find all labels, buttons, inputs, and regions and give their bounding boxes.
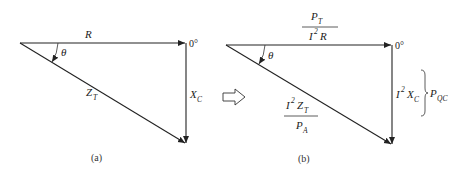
right-brace: [421, 70, 428, 116]
caption-a: (a): [91, 152, 102, 164]
reference-angle-label: 0°: [189, 38, 198, 49]
angle-arc: [52, 43, 58, 62]
hollow-right-arrow-icon: [223, 89, 245, 105]
reference-angle-label: 0°: [395, 40, 404, 51]
impedance-label: Z: [86, 86, 93, 98]
angle-arc: [259, 45, 265, 64]
caption-b: (b): [298, 153, 310, 165]
i-squared-zt-sup: 2: [291, 96, 295, 105]
power-triangle: P T I 2 R 0° θ I 2 X C P QC I 2 Z T P A …: [226, 10, 448, 165]
theta-label: θ: [268, 49, 274, 61]
i-squared-r-r: R: [319, 30, 327, 42]
apparent-power-subscript: A: [302, 126, 308, 135]
true-power-subscript: T: [318, 17, 323, 26]
i-squared-zt-sub: T: [304, 106, 309, 115]
total-impedance-vector: [20, 43, 185, 143]
i-squared-xc-sub: C: [414, 95, 420, 104]
impedance-power-triangle-diagram: R 0° θ Z T X C (a) P T I 2 R 0° θ I 2 X …: [0, 0, 464, 176]
reactive-power-label: P: [429, 87, 437, 99]
impedance-subscript: T: [93, 93, 98, 102]
reactive-power-subscript: QC: [437, 94, 448, 103]
apparent-power-label: P: [295, 119, 303, 131]
apparent-power-vector: [226, 45, 391, 144]
i-squared-xc-sup: 2: [401, 85, 405, 94]
i-squared-r-sup: 2: [314, 27, 318, 36]
impedance-triangle: R 0° θ Z T X C (a): [20, 28, 203, 164]
reactance-subscript: C: [197, 95, 203, 104]
i-squared-zt-z: Z: [297, 99, 304, 111]
resistance-label: R: [84, 28, 92, 40]
true-power-label: P: [310, 10, 318, 22]
theta-label: θ: [61, 46, 67, 58]
